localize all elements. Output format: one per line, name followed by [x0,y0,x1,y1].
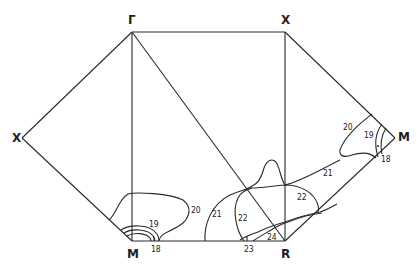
contour-18-m-right [381,128,386,154]
label-r: R [281,247,290,261]
contour-label: 19 [149,219,159,229]
contour-label: 22 [238,213,248,223]
contour-label: 24 [267,232,277,242]
contour-label: 18 [151,244,161,254]
zone-edges [22,32,395,241]
vertex-labels: Γ X X M R M [12,13,410,261]
label-x-left: X [12,131,22,145]
edge-x-left-m [22,138,132,241]
contour-label: 18 [381,154,391,164]
edge-x-m-right [285,32,395,138]
label-x-top: X [281,13,291,27]
contours-r [205,160,340,241]
contour-label: 22 [297,192,307,202]
label-m-right: M [398,130,410,144]
edge-gamma-x-left [22,32,132,138]
label-gamma: Γ [128,13,136,27]
contour-label: 21 [323,168,333,178]
contour-label: 21 [212,209,222,219]
contour-24 [253,213,322,241]
contour-label: 20 [343,122,353,132]
contour-labels: 20 19 18 21 22 22 21 23 24 20 19 18 [149,122,391,254]
brillouin-zone-diagram: Γ X X M R M 20 19 18 21 22 22 21 23 24 2… [0,0,418,264]
contours-m-right [340,114,386,158]
contours-m-bottom [109,193,189,241]
edge-gamma-r [132,32,285,241]
contour-label: 19 [364,130,374,140]
contour-20-m [109,193,189,241]
label-m-bottom: M [127,247,139,261]
point-marker [377,145,379,147]
contour-label: 23 [244,244,254,254]
contour-label: 20 [191,205,201,215]
